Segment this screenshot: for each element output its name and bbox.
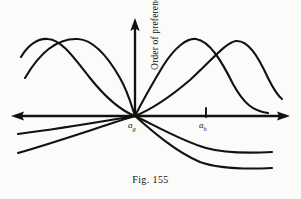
figure-caption: Fig. 155 (0, 174, 301, 185)
origin-point-label: ag (128, 120, 136, 132)
curve-left-lower-descending (18, 116, 135, 153)
origin-label-subscript: g (133, 125, 136, 132)
tick-label-subscript: h (204, 125, 207, 132)
y-axis-title: Order of preference (150, 0, 160, 74)
tick-point-label: ah (199, 120, 207, 132)
figure-container: Order of preference ag ah Fig. 155 (0, 0, 301, 199)
curve-left-upper-descending (18, 116, 135, 134)
curve-left-inner-peak (25, 39, 135, 116)
x-axis (11, 112, 290, 121)
y-axis (130, 18, 139, 116)
curve-left-outer-peak (21, 39, 135, 116)
